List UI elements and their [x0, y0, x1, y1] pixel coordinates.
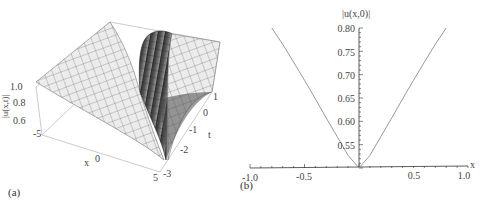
- x-tick-label: 5: [153, 172, 158, 183]
- x-tick-label: 0.5: [408, 170, 421, 181]
- y-axis-label: |u(x,0)|: [342, 8, 370, 20]
- t-tick-label: 1: [213, 91, 218, 102]
- surface-plot-svg: 1.0 0.8 0.6 |u(x,t)| -5 0 5 x 1 0 -1 -2 …: [0, 0, 240, 206]
- t-axis-label: t: [208, 129, 211, 140]
- t-tick-label: -1: [189, 124, 197, 135]
- z-tick-label: 1.0: [10, 81, 23, 92]
- t-tick-label: -3: [163, 168, 171, 179]
- x-axis-label: x: [470, 159, 475, 170]
- t-tick-label: -2: [180, 144, 188, 155]
- y-tick-label: 0.75: [338, 47, 356, 58]
- y-tick-label: 0.65: [338, 93, 356, 104]
- z-tick-label: 0.8: [13, 97, 26, 108]
- panel-a-label: (a): [8, 186, 20, 198]
- panel-a-surface-plot: 1.0 0.8 0.6 |u(x,t)| -5 0 5 x 1 0 -1 -2 …: [0, 0, 240, 206]
- line-plot-svg: 0.80 0.75 0.70 0.65 0.60 0.55 |u(x,0)| -…: [240, 0, 482, 206]
- y-tick-labels: 0.80 0.75 0.70 0.65 0.60 0.55: [338, 23, 356, 151]
- y-tick-label: 0.55: [338, 140, 356, 151]
- y-tick-label: 0.80: [338, 23, 356, 34]
- x-axis-label: x: [84, 157, 89, 168]
- x-tick-label: -0.5: [296, 171, 312, 182]
- z-axis-label: |u(x,t)|: [0, 94, 10, 118]
- z-axis: 1.0 0.8 0.6 |u(x,t)|: [0, 81, 26, 126]
- x-tick-label: -5: [33, 128, 41, 139]
- t-tick-label: 0: [203, 107, 208, 118]
- panel-b-line-plot: 0.80 0.75 0.70 0.65 0.60 0.55 |u(x,0)| -…: [240, 0, 482, 206]
- x-tick-labels: -1.0 -0.5 0.5 1.0: [242, 170, 470, 183]
- y-tick-label: 0.60: [338, 116, 356, 127]
- x-tick-label: 1.0: [458, 170, 471, 181]
- y-axis-ticks: [359, 28, 363, 168]
- z-tick-label: 0.6: [13, 115, 26, 126]
- x-tick-label: 0: [95, 153, 100, 164]
- panel-b-label: (b): [240, 179, 253, 191]
- y-tick-label: 0.70: [338, 70, 356, 81]
